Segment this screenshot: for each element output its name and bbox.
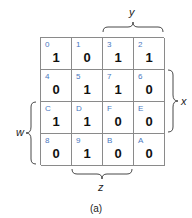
- cell-value: 1: [72, 114, 102, 129]
- x-label: x: [181, 95, 187, 107]
- cell-value: 1: [103, 82, 133, 97]
- cell-index: 1: [76, 40, 80, 49]
- cell-value: 1: [72, 146, 102, 161]
- figure-caption: (a): [0, 203, 192, 214]
- y-label: y: [129, 6, 135, 18]
- cell-index: D: [76, 104, 82, 113]
- cell-index: C: [45, 104, 51, 113]
- kmap-cell: E0: [134, 102, 165, 134]
- kmap-cell: 10: [72, 38, 103, 70]
- karnaugh-map-grid: 01 10 31 21 40 51 71 60 C1 D1 F0 E0 80 9…: [40, 37, 164, 165]
- cell-index: F: [107, 104, 112, 113]
- cell-value: 0: [103, 114, 133, 129]
- cell-index: 2: [138, 40, 142, 49]
- kmap-cell: 91: [72, 134, 103, 166]
- kmap-cell: D1: [72, 102, 103, 134]
- cell-index: 3: [107, 40, 111, 49]
- cell-value: 0: [41, 146, 71, 161]
- cell-index: 5: [76, 72, 80, 81]
- z-label: z: [98, 181, 104, 193]
- w-label: w: [16, 126, 24, 138]
- kmap-cell: 71: [103, 70, 134, 102]
- cell-index: 7: [107, 72, 111, 81]
- cell-value: 0: [41, 82, 71, 97]
- cell-index: 9: [76, 136, 80, 145]
- cell-index: E: [138, 104, 143, 113]
- cell-index: 8: [45, 136, 49, 145]
- cell-value: 1: [103, 50, 133, 65]
- cell-index: 4: [45, 72, 49, 81]
- kmap-cell: A0: [134, 134, 165, 166]
- kmap-cell: 60: [134, 70, 165, 102]
- cell-value: 1: [72, 82, 102, 97]
- cell-value: 1: [41, 50, 71, 65]
- cell-value: 1: [134, 50, 164, 65]
- kmap-cell: 80: [41, 134, 72, 166]
- cell-value: 0: [134, 82, 164, 97]
- kmap-cell: B0: [103, 134, 134, 166]
- cell-index: 6: [138, 72, 142, 81]
- kmap-cell: 51: [72, 70, 103, 102]
- cell-value: 0: [72, 50, 102, 65]
- cell-index: B: [107, 136, 112, 145]
- cell-value: 0: [134, 114, 164, 129]
- cell-value: 0: [103, 146, 133, 161]
- kmap-cell: 01: [41, 38, 72, 70]
- kmap-cell: 40: [41, 70, 72, 102]
- kmap-cell: C1: [41, 102, 72, 134]
- kmap-cell: 31: [103, 38, 134, 70]
- cell-index: 0: [45, 40, 49, 49]
- cell-value: 0: [134, 146, 164, 161]
- cell-value: 1: [41, 114, 71, 129]
- kmap-cell: F0: [103, 102, 134, 134]
- cell-index: A: [138, 136, 143, 145]
- kmap-cell: 21: [134, 38, 165, 70]
